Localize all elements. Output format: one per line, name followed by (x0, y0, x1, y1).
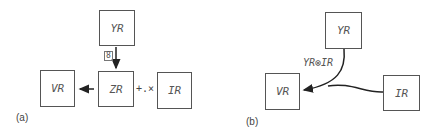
panel-a-label: (a) (16, 112, 28, 123)
operator-label: +.× (136, 83, 154, 94)
node-ir-b: IR (383, 75, 420, 111)
diagram-edges (0, 0, 435, 133)
node-vr-a: VR (40, 70, 75, 107)
edge-symbol: 8 (104, 51, 113, 61)
panel-b-label: (b) (246, 116, 258, 127)
node-vr-b: VR (265, 73, 300, 110)
node-yr-a: YR (99, 10, 135, 46)
node-ir-a: IR (157, 72, 192, 109)
edge-ir-vr (328, 85, 383, 92)
edge-label-yr-ir: YR⊗IR (303, 57, 333, 68)
node-yr-b: YR (325, 12, 362, 49)
edge-yr-vr (304, 49, 344, 90)
node-zr-a: ZR (98, 71, 134, 107)
